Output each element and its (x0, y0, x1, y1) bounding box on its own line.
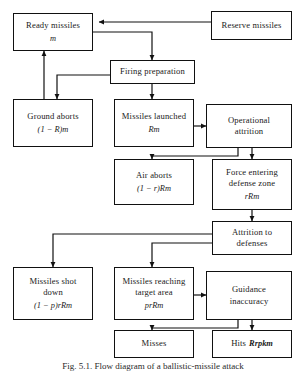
node-missiles-shot-down[interactable]: Missiles shot down (1 − p)rRm (13, 267, 93, 320)
node-missiles-reaching-formula: prRm (145, 300, 164, 311)
node-reserve-missiles-label: Reserve missiles (222, 20, 282, 31)
node-ready-missiles-formula: m (50, 33, 56, 44)
node-guidance-inaccuracy-label-line2: inaccuracy (230, 296, 269, 307)
node-attrition-to-defenses-label-line2: defenses (237, 238, 268, 249)
node-air-aborts[interactable]: Air aborts (1 − r)Rm (114, 159, 194, 205)
node-missiles-shot-down-label-line2: down (43, 287, 63, 298)
node-misses-label: Misses (142, 338, 167, 349)
node-missiles-shot-down-formula: (1 − p)rRm (34, 300, 72, 311)
node-misses[interactable]: Misses (114, 330, 194, 358)
node-missiles-launched[interactable]: Missiles launched Rm (114, 99, 194, 147)
node-force-entering-label-line2: defense zone (229, 178, 275, 189)
node-missiles-shot-down-label-line1: Missiles shot (29, 276, 76, 287)
node-missiles-reaching-target-area[interactable]: Missiles reaching target area prRm (114, 267, 194, 320)
node-ready-missiles-label: Ready missiles (26, 20, 80, 31)
node-ground-aborts-label: Ground aborts (27, 111, 78, 122)
node-reserve-missiles[interactable]: Reserve missiles (211, 11, 292, 40)
edge-attrition-to-defenses-to-missiles-shot-down (53, 234, 212, 267)
node-force-entering-label-line1: Force entering (226, 167, 278, 178)
figure-caption: Fig. 5.1. Flow diagram of a ballistic-mi… (0, 361, 306, 371)
figure-caption-text: Flow diagram of a ballistic-missile atta… (95, 361, 244, 371)
node-guidance-inaccuracy[interactable]: Guidance inaccuracy (206, 271, 292, 320)
node-ground-aborts-formula: (1 − R)m (38, 124, 69, 135)
edge-attrition-to-defenses-to-missiles-reaching (152, 243, 212, 267)
node-missiles-reaching-label-line2: target area (135, 287, 173, 298)
node-operational-attrition-label-line2: attrition (235, 126, 264, 137)
edge-guidance-inaccuracy-to-misses (152, 320, 238, 330)
node-attrition-to-defenses-label-line1: Attrition to (232, 227, 272, 238)
node-missiles-launched-formula: Rm (148, 124, 159, 135)
node-attrition-to-defenses[interactable]: Attrition to defenses (212, 221, 292, 255)
node-hits[interactable]: Hits Rrpkm (212, 330, 292, 358)
node-operational-attrition[interactable]: Operational attrition (206, 104, 292, 148)
flow-diagram: Ready missiles m Reserve missiles Firing… (0, 0, 306, 373)
node-firing-preparation-label: Firing preparation (120, 66, 185, 77)
edge-operational-attrition-to-air-aborts (152, 148, 238, 159)
figure-caption-number: Fig. 5.1. (62, 361, 92, 371)
node-missiles-launched-label: Missiles launched (122, 111, 186, 122)
node-force-entering-defense-zone[interactable]: Force entering defense zone rRm (212, 159, 292, 210)
node-missiles-reaching-label-line1: Missiles reaching (123, 276, 186, 287)
node-force-entering-formula: rRm (245, 191, 259, 202)
edge-firing-preparation-to-ground-aborts (57, 75, 110, 99)
node-operational-attrition-label-line1: Operational (228, 115, 270, 126)
node-firing-preparation[interactable]: Firing preparation (110, 60, 195, 84)
node-air-aborts-formula: (1 − r)Rm (137, 183, 171, 194)
node-hits-formula: Rrpkm (249, 338, 273, 349)
node-hits-label: Hits (231, 338, 246, 349)
node-ready-missiles[interactable]: Ready missiles m (13, 13, 93, 51)
node-guidance-inaccuracy-label-line1: Guidance (232, 284, 266, 295)
node-air-aborts-label: Air aborts (136, 170, 172, 181)
edge-ready-to-firing-preparation (93, 32, 152, 60)
node-ground-aborts[interactable]: Ground aborts (1 − R)m (13, 99, 93, 147)
